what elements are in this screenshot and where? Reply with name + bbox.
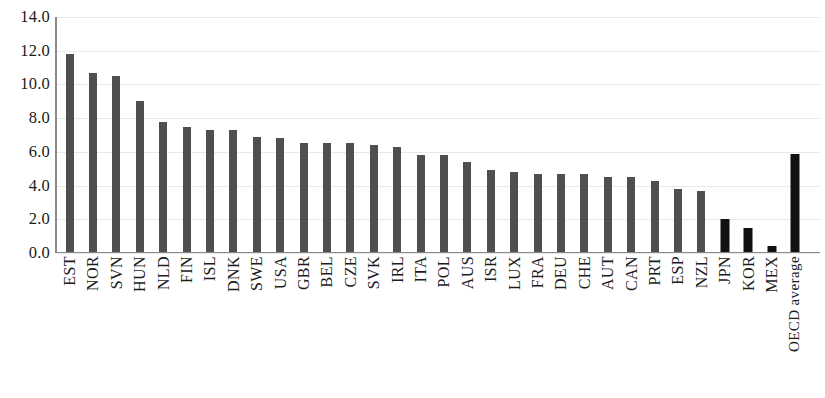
x-axis-tick-label-svn: SVN [105,256,128,293]
x-axis-tick-label-text: CHE [573,256,596,289]
bar-slot [573,17,596,253]
x-axis-tick-label-text: USA [269,256,292,289]
y-axis-tick-label: 0.0 [4,245,50,262]
x-axis-tick-label-est: EST [58,256,81,290]
x-axis-tick-label-text: SVN [105,256,128,289]
x-axis-tick-label-text: DNK [222,256,245,292]
bar-slot [526,17,549,253]
bar-fin [183,127,191,253]
x-axis-tick-label-text: NLD [152,256,175,290]
gridline [55,253,820,254]
x-axis-tick-labels: ESTNORSVNHUNNLDFINISLDNKSWEUSAGBRBELCZES… [55,256,820,396]
x-axis-tick-label-oecd-average: OECD average [783,256,806,356]
y-axis-tick-label: 8.0 [4,110,50,127]
x-axis-tick-label-text: NOR [81,256,104,291]
bar-can [627,177,635,253]
bar-deu [557,174,565,253]
bar-slot [315,17,338,253]
bar-slot [596,17,619,253]
x-axis-tick-label-swe: SWE [245,256,268,295]
bar-nor [89,73,97,253]
x-axis-tick-label-fin: FIN [175,256,198,287]
x-axis-tick-label-hun: HUN [128,256,151,296]
bar-slot [690,17,713,253]
y-axis-tick-label: 14.0 [4,9,50,26]
x-axis-tick-label-usa: USA [269,256,292,293]
bar-slot [479,17,502,253]
bar-slot [737,17,760,253]
bar-usa [276,138,284,253]
x-axis-tick-label-lux: LUX [503,256,526,294]
x-axis-tick-label-text: FRA [526,256,549,288]
bar-chart: 14.012.010.08.06.04.02.00.0 ESTNORSVNHUN… [0,0,825,398]
x-axis-tick-label-text: EST [58,256,81,286]
x-axis-tick-label-text: BEL [315,256,338,287]
x-axis-tick-label-text: JPN [713,256,736,284]
bar-fra [534,174,542,253]
bar-series [55,17,820,253]
bar-slot [269,17,292,253]
bar-est [66,54,74,253]
bar-slot [713,17,736,253]
bar-irl [393,147,401,253]
bar-gbr [300,143,308,253]
bar-jpn [720,219,729,253]
x-axis-tick-label-ita: ITA [409,256,432,287]
bar-slot [58,17,81,253]
bar-isl [206,130,214,253]
bar-svn [112,76,120,253]
bar-slot [386,17,409,253]
bar-slot [198,17,221,253]
x-axis-tick-label-jpn: JPN [713,256,736,288]
y-axis-tick-label: 4.0 [4,177,50,194]
x-axis-tick-label-text: ISL [198,256,221,281]
x-axis-tick-label-text: ISR [479,256,502,282]
x-axis-tick-label-cze: CZE [339,256,362,291]
x-axis-tick-label-text: HUN [128,256,151,292]
x-axis-tick-label-text: NZL [690,256,713,288]
bar-prt [651,181,659,253]
bar-isr [487,170,495,253]
y-axis-tick-label: 2.0 [4,211,50,228]
x-axis-tick-label-mex: MEX [760,256,783,297]
x-axis-tick-label-nzl: NZL [690,256,713,292]
bar-slot [503,17,526,253]
bar-slot [128,17,151,253]
bar-hun [136,101,144,253]
bar-slot [456,17,479,253]
bar-aut [604,177,612,253]
bar-che [580,174,588,253]
x-axis-tick-label-text: KOR [737,256,760,291]
bar-oecd-average [791,154,800,253]
bar-slot [245,17,268,253]
bar-esp [674,189,682,253]
x-axis-tick-label-che: CHE [573,256,596,293]
x-axis-tick-label-text: IRL [386,256,409,283]
x-axis-tick-label-aus: AUS [456,256,479,293]
x-axis-tick-label-text: MEX [760,256,783,293]
x-axis-tick-label-svk: SVK [362,256,385,293]
x-axis-tick-label-text: SWE [245,256,268,291]
x-axis-tick-label-text: DEU [549,256,572,290]
x-axis-tick-label-nld: NLD [152,256,175,294]
x-axis-tick-label-fra: FRA [526,256,549,292]
bar-slot [222,17,245,253]
bar-slot [432,17,455,253]
x-axis-tick-label-isl: ISL [198,256,221,285]
bar-pol [440,155,448,253]
x-axis-tick-label-text: LUX [503,256,526,290]
bar-aus [463,162,471,253]
x-axis-tick-label-aut: AUT [596,256,619,294]
x-axis-tick-label-isr: ISR [479,256,502,286]
x-axis-tick-label-text: SVK [362,256,385,289]
x-axis-tick-label-pol: POL [432,256,455,291]
bar-slot [105,17,128,253]
x-axis-tick-label-text: AUT [596,256,619,290]
x-axis-tick-label-text: ESP [666,256,689,285]
bar-nld [159,122,167,253]
x-axis-tick-label-text: PRT [643,256,666,286]
x-axis-tick-label-nor: NOR [81,256,104,295]
plot-area [55,17,820,253]
bar-nzl [697,191,705,253]
x-axis-tick-label-text: GBR [292,256,315,290]
